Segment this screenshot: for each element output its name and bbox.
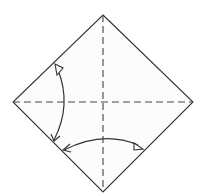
origami-diagram — [0, 0, 206, 196]
